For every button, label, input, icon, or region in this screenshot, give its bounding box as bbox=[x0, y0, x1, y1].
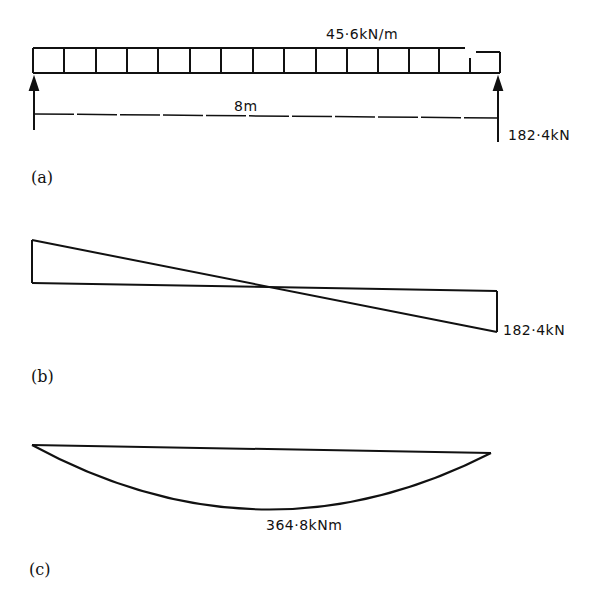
shear-label: 182·4kN bbox=[503, 322, 565, 338]
span-dimension-line bbox=[34, 114, 498, 118]
moment-label: 364·8kNm bbox=[266, 517, 342, 533]
reaction-label: 182·4kN bbox=[508, 127, 570, 143]
bending-moment-diagram bbox=[32, 445, 491, 510]
caption-b: (b) bbox=[31, 367, 54, 386]
udl-label: 45·6kN/m bbox=[326, 26, 398, 42]
caption-a: (a) bbox=[31, 168, 53, 187]
udl-load-blocks bbox=[33, 48, 500, 73]
shear-force-diagram bbox=[32, 240, 497, 332]
left-reaction-arrow bbox=[30, 78, 38, 130]
right-reaction-arrow bbox=[494, 78, 502, 142]
span-label: 8m bbox=[234, 98, 258, 114]
caption-c: (c) bbox=[29, 560, 50, 579]
